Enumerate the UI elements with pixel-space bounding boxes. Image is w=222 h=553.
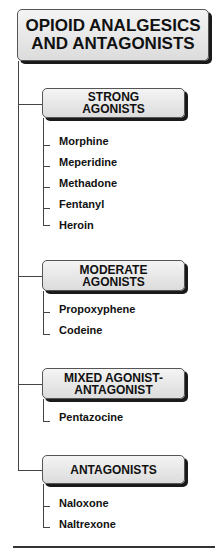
- root-title-line-1: OPIOID ANALGESICS: [18, 17, 208, 35]
- connector-strong: [18, 104, 42, 105]
- category-label: AGONISTS: [43, 103, 184, 115]
- tick: [43, 187, 50, 188]
- tick: [43, 145, 50, 146]
- tick: [43, 225, 50, 226]
- root-node: OPIOID ANALGESICS AND ANTAGONISTS: [17, 9, 209, 61]
- tick: [43, 166, 50, 167]
- category-label: ANTAGONISTS: [43, 464, 184, 476]
- trunk-line: [18, 61, 19, 471]
- category-label: AGONISTS: [43, 276, 184, 288]
- tick: [43, 312, 50, 313]
- root-title-line-2: AND ANTAGONISTS: [18, 35, 208, 53]
- bottom-rule: [13, 546, 215, 548]
- tick: [43, 527, 50, 528]
- category-antagonists: ANTAGONISTS: [42, 455, 185, 484]
- tick: [43, 421, 50, 422]
- category-moderate-agonists: MODERATE AGONISTS: [42, 260, 185, 291]
- connector-mixed: [18, 384, 42, 385]
- category-mixed-agonist-antagonist: MIXED AGONIST- ANTAGONIST: [42, 368, 185, 399]
- category-label: MIXED AGONIST-: [43, 372, 184, 384]
- list-item: Fentanyl: [59, 198, 104, 211]
- branch-line-mixed: [43, 399, 44, 421]
- tick: [43, 334, 50, 335]
- list-item: Meperidine: [59, 156, 117, 169]
- connector-antagonists: [18, 470, 42, 471]
- list-item: Morphine: [59, 135, 109, 148]
- list-item: Naltrexone: [59, 518, 116, 531]
- list-item: Propoxyphene: [59, 303, 135, 316]
- category-label: ANTAGONIST: [43, 384, 184, 396]
- tick: [43, 506, 50, 507]
- list-item: Codeine: [59, 324, 102, 337]
- category-strong-agonists: STRONG AGONISTS: [42, 88, 185, 118]
- list-item: Methadone: [59, 177, 117, 190]
- connector-moderate: [18, 276, 42, 277]
- list-item: Pentazocine: [59, 411, 123, 424]
- tick: [43, 208, 50, 209]
- category-label: MODERATE: [43, 264, 184, 276]
- list-item: Heroin: [59, 219, 94, 232]
- list-item: Naloxone: [59, 497, 109, 510]
